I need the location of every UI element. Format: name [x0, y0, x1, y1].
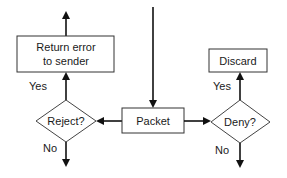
discard-label: Discard [219, 55, 256, 67]
edge-return-error-exit [62, 11, 70, 36]
return-error-label-line1: Return error [36, 41, 96, 53]
packet-label: Packet [136, 115, 170, 127]
edge-deny-yes: Yes [213, 72, 244, 100]
return-error-node: Return error to sender [17, 36, 114, 72]
flowchart-canvas: Return error to sender Yes Reject? No Pa… [0, 0, 287, 178]
reject-no-label: No [43, 142, 57, 154]
deny-no-label: No [215, 144, 229, 156]
edge-input-to-packet [149, 7, 157, 108]
edge-packet-to-deny [184, 117, 211, 125]
edge-reject-no: No [43, 142, 70, 167]
deny-decision-node: Deny? [211, 100, 270, 143]
discard-node: Discard [209, 49, 267, 72]
edge-packet-to-reject [96, 117, 122, 125]
return-error-label-line2: to sender [43, 55, 89, 67]
reject-label: Reject? [47, 115, 84, 127]
edge-deny-no: No [215, 143, 244, 168]
deny-label: Deny? [224, 116, 256, 128]
reject-yes-label: Yes [29, 80, 47, 92]
packet-node: Packet [122, 108, 184, 133]
reject-decision-node: Reject? [36, 100, 96, 142]
deny-yes-label: Yes [213, 80, 231, 92]
edge-reject-yes: Yes [29, 72, 70, 100]
